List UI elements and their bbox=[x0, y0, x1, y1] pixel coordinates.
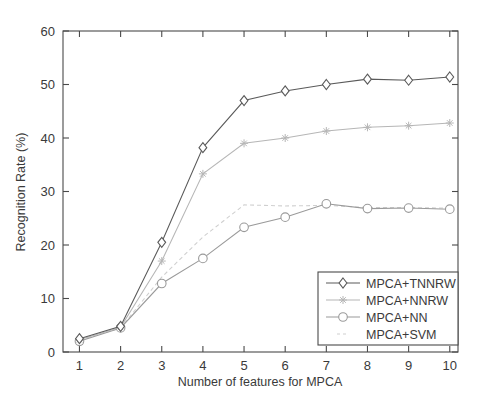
x-tick-label: 1 bbox=[76, 358, 83, 373]
y-tick-label: 10 bbox=[41, 291, 55, 306]
x-tick-label: 9 bbox=[405, 358, 412, 373]
y-tick-label: 40 bbox=[41, 131, 55, 146]
x-tick-label: 5 bbox=[240, 358, 247, 373]
legend-item-label: MPCA+SVM bbox=[366, 328, 437, 342]
x-tick-label: 3 bbox=[158, 358, 165, 373]
legend[interactable]: MPCA+TNNRWMPCA+NNRWMPCA+NNMPCA+SVM bbox=[318, 272, 458, 345]
x-tick-label: 10 bbox=[443, 358, 457, 373]
legend-item-label: MPCA+TNNRW bbox=[366, 277, 456, 291]
chart-figure: 0102030405060 12345678910 Number of feat… bbox=[0, 0, 492, 405]
y-tick-label: 60 bbox=[41, 24, 55, 39]
x-tick-label: 8 bbox=[364, 358, 371, 373]
y-tick-label: 30 bbox=[41, 184, 55, 199]
y-tick-label: 0 bbox=[48, 345, 55, 360]
x-tick-label: 7 bbox=[323, 358, 330, 373]
y-tick-label: 50 bbox=[41, 77, 55, 92]
y-tick-label: 20 bbox=[41, 238, 55, 253]
recognition-rate-line-chart: 0102030405060 12345678910 Number of feat… bbox=[0, 0, 492, 405]
legend-item-label: MPCA+NN bbox=[366, 311, 427, 325]
legend-item-label: MPCA+NNRW bbox=[366, 294, 448, 308]
x-tick-label: 2 bbox=[117, 358, 124, 373]
y-axis-title: Recognition Rate (%) bbox=[14, 133, 28, 252]
x-tick-label: 4 bbox=[199, 358, 206, 373]
x-axis-title: Number of features for MPCA bbox=[178, 375, 343, 389]
x-tick-label: 6 bbox=[282, 358, 289, 373]
